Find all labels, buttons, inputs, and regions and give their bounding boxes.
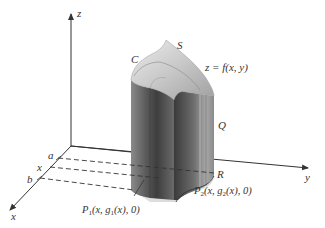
mark-x-label: x	[36, 161, 42, 173]
x-axis-label: x	[10, 210, 16, 222]
z-axis-label: z	[76, 7, 82, 19]
point-P1-label: P1(x, g1(x), 0)	[81, 204, 140, 217]
volume-diagram: z y x a x b C S z = f(x, y) Q R P1(x, g1…	[0, 0, 325, 228]
mark-a-label: a	[48, 149, 54, 161]
solid-front-wall	[131, 80, 174, 200]
surface-equation-label: z = f(x, y)	[204, 61, 248, 74]
curve-C-label: C	[131, 53, 139, 65]
point-R-label: R	[216, 168, 224, 180]
point-Q-label: Q	[218, 119, 226, 131]
y-axis-label: y	[304, 171, 310, 183]
surface-S-label: S	[177, 39, 183, 51]
mark-b-label: b	[27, 173, 33, 185]
